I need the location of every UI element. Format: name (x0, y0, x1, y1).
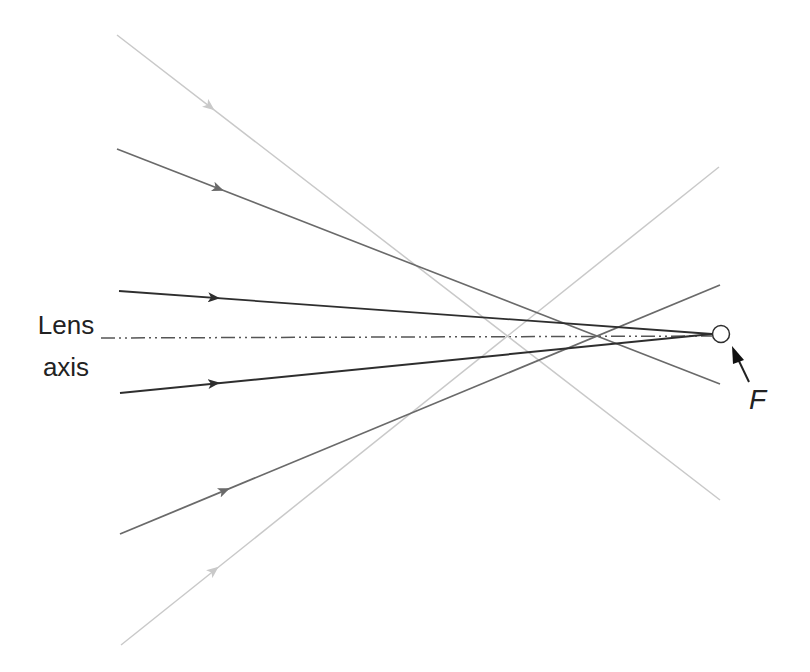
dark-ray-upper (119, 291, 712, 334)
focal-pointer-arrow (732, 346, 749, 382)
arrowhead-icon (732, 346, 744, 364)
dark-ray-lower (120, 334, 712, 393)
lens-axis-label-line2: axis (28, 346, 104, 388)
focal-point-label: F (749, 384, 766, 416)
light-ray-bottom (121, 167, 719, 645)
lens-axis-label: Lens axis (28, 304, 104, 388)
medium-ray-lower (120, 285, 720, 534)
focal-point-circle (713, 326, 730, 343)
medium-ray-upper (117, 149, 720, 384)
lens-focus-diagram (0, 0, 810, 672)
lens-axis-label-line1: Lens (28, 304, 104, 346)
light-ray-top (117, 35, 720, 500)
lens-axis-line (101, 336, 712, 338)
